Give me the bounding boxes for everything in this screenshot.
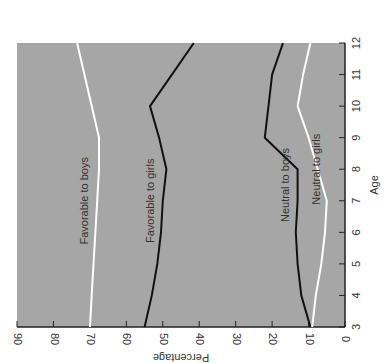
age-tick-label: 8 [350,166,362,172]
age-tick-label: 12 [350,37,362,49]
percentage-tick-label: 90 [12,333,24,345]
percentage-tick-label: 50 [158,333,170,345]
percentage-tick-label: 40 [194,333,206,345]
age-axis-title: Age [368,175,380,195]
chart-container: 01020304050607080903456789101112Percenta… [0,0,384,363]
series-annotation: Favorable to boys [78,157,90,245]
percentage-tick-label: 20 [267,333,279,345]
age-tick-label: 6 [350,229,362,235]
percentage-tick-label: 10 [304,333,316,345]
age-tick-label: 11 [350,69,362,80]
age-tick-label: 4 [350,292,362,298]
percentage-axis-title: Percentage [153,352,209,363]
percentage-tick-label: 60 [121,333,133,345]
plot-area [17,43,345,327]
percentage-tick-label: 70 [85,333,97,345]
series-annotation: Neutral to boys [279,148,291,222]
age-tick-label: 3 [350,324,362,330]
series-annotation: Favorable to girls [144,158,156,243]
percentage-tick-label: 30 [231,333,243,345]
line-chart: 01020304050607080903456789101112Percenta… [0,0,384,363]
age-tick-label: 7 [350,198,362,204]
series-annotation: Neutral to girls [310,133,322,204]
percentage-tick-label: 80 [49,333,61,345]
age-tick-label: 9 [350,135,362,141]
percentage-tick-label: 0 [340,336,352,342]
age-tick-label: 10 [350,100,362,112]
age-tick-label: 5 [350,261,362,267]
